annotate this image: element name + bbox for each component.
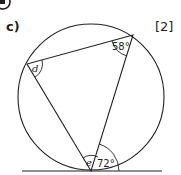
inscribed-triangle bbox=[27, 35, 133, 171]
angle-label-d: d bbox=[32, 63, 38, 74]
marks-label: [2] bbox=[155, 19, 173, 34]
circle bbox=[18, 24, 164, 170]
angle-label-72: 72° bbox=[97, 158, 115, 169]
calculator-icon bbox=[0, 0, 10, 9]
circle-theorem-diagram: c) [2] 58° d e 72° bbox=[0, 0, 181, 175]
part-label: c) bbox=[6, 19, 20, 34]
angle-label-58: 58° bbox=[112, 41, 130, 52]
angle-label-e: e bbox=[86, 157, 92, 168]
